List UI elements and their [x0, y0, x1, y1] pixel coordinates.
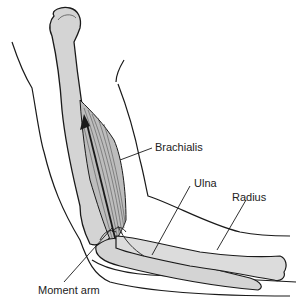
- ulna-label: Ulna: [194, 178, 217, 189]
- radius-leader-line: [217, 200, 246, 250]
- brachialis-label: Brachialis: [155, 142, 203, 153]
- elbow-anatomy-diagram: Brachialis Ulna Radius Moment arm: [0, 0, 304, 303]
- ulna-leader-line: [152, 186, 190, 255]
- moment-arm-label: Moment arm: [38, 285, 100, 296]
- anatomy-illustration: [0, 0, 304, 303]
- brachialis-leader-line: [120, 148, 152, 160]
- radius-label: Radius: [232, 192, 266, 203]
- arm-skin-outline-right: [116, 60, 290, 236]
